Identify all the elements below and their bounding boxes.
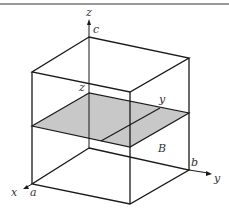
z-level-label: z [78,81,85,94]
c-label: c [93,23,99,36]
z-axis-label: z [85,6,92,19]
y-level-label: y [158,93,166,106]
y-axis-label: y [213,172,221,185]
box-integration-diagram: z c z y B b y x a [0,0,229,220]
x-axis-label: x [11,186,18,199]
y-axis-arrow-icon [206,171,212,176]
a-label: a [30,186,37,199]
region-b-label: B [157,142,166,155]
y-axis [189,170,208,173]
box-bottom-face [32,148,189,204]
b-label: b [191,156,198,169]
cross-section-plane [32,93,189,147]
box-top-face [32,37,189,92]
x-axis-arrow-icon [23,185,29,189]
z-axis-arrow-icon [87,19,91,25]
